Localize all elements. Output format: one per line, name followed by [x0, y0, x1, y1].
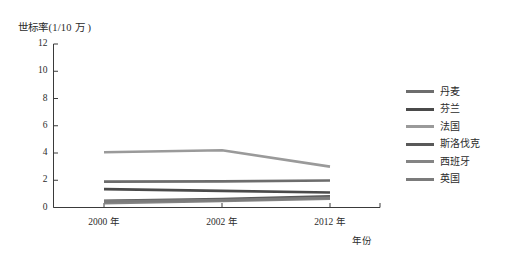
y-tick-label: 2 — [26, 174, 48, 184]
line-chart: 世标率(1/10 万 ) 121086420 2000 年2002 年2012 … — [0, 0, 506, 270]
legend-swatch-icon — [406, 160, 434, 163]
legend-item[interactable]: 西班牙 — [406, 153, 480, 171]
y-tick-label: 4 — [26, 147, 48, 157]
x-tick-label: 2000 年 — [74, 214, 134, 228]
series-line — [104, 150, 330, 166]
legend-item[interactable]: 斯洛伐克 — [406, 136, 480, 154]
tick-marks — [54, 44, 381, 208]
legend-item[interactable]: 丹麦 — [406, 83, 480, 101]
legend-swatch-icon — [406, 108, 434, 111]
legend-item-label: 西班牙 — [440, 157, 470, 167]
legend-item[interactable]: 法国 — [406, 118, 480, 136]
series-line — [104, 181, 330, 182]
legend-item-label: 英国 — [440, 174, 460, 184]
legend-item-label: 丹麦 — [440, 87, 460, 97]
legend-item-label: 芬兰 — [440, 104, 460, 114]
legend-swatch-icon — [406, 125, 434, 128]
axis-lines — [54, 44, 381, 208]
legend-swatch-icon — [406, 90, 434, 93]
y-tick-label: 0 — [26, 202, 48, 212]
y-tick-label: 10 — [26, 65, 48, 75]
legend-swatch-icon — [406, 178, 434, 181]
x-tick-label: 2002 年 — [192, 214, 252, 228]
data-series-layer — [104, 150, 330, 203]
legend-item-label: 法国 — [440, 122, 460, 132]
chart-legend: 丹麦芬兰法国斯洛伐克西班牙英国 — [406, 83, 480, 188]
x-axis-title: 年份 — [352, 233, 372, 247]
y-tick-label: 8 — [26, 93, 48, 103]
legend-swatch-icon — [406, 143, 434, 146]
y-tick-label: 12 — [26, 38, 48, 48]
x-tick-label: 2012 年 — [300, 214, 360, 228]
y-tick-label: 6 — [26, 120, 48, 130]
legend-item[interactable]: 英国 — [406, 171, 480, 189]
legend-item[interactable]: 芬兰 — [406, 101, 480, 119]
legend-item-label: 斯洛伐克 — [440, 139, 480, 149]
series-line — [104, 189, 330, 192]
